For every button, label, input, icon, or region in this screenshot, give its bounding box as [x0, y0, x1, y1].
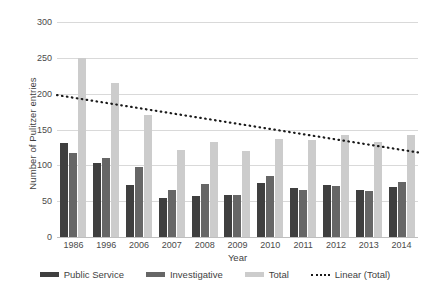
bar-public-service[interactable]: [60, 143, 68, 237]
bars: [385, 22, 418, 237]
bar-total[interactable]: [308, 140, 316, 237]
bar-total[interactable]: [210, 142, 218, 237]
bar-investigative[interactable]: [233, 195, 241, 237]
bars: [287, 22, 320, 237]
bar-total[interactable]: [275, 139, 283, 237]
bar-investigative[interactable]: [102, 158, 110, 237]
plot-area: [57, 22, 418, 237]
x-tick-label: 2006: [123, 240, 156, 250]
y-tick-label: 100: [26, 160, 52, 170]
bar-investigative[interactable]: [398, 182, 406, 237]
y-tick-label: 200: [26, 89, 52, 99]
y-tick-label: 300: [26, 17, 52, 27]
bar-investigative[interactable]: [299, 190, 307, 237]
legend-label: Public Service: [64, 269, 124, 280]
bar-public-service[interactable]: [224, 195, 232, 237]
chart-legend: Public ServiceInvestigativeTotalLinear (…: [0, 269, 430, 280]
bar-investigative[interactable]: [69, 153, 77, 237]
bar-investigative[interactable]: [332, 186, 340, 237]
bar-group: [123, 22, 156, 237]
bar-public-service[interactable]: [159, 198, 167, 237]
bar-investigative[interactable]: [266, 176, 274, 237]
bar-total[interactable]: [78, 58, 86, 237]
x-tick-label: 2012: [320, 240, 353, 250]
bar-total[interactable]: [374, 142, 382, 237]
bars: [221, 22, 254, 237]
bar-group: [155, 22, 188, 237]
bars: [188, 22, 221, 237]
legend-item[interactable]: Total: [245, 269, 289, 280]
pulitzer-entries-chart: Number of Pulitzer entries 0501001502002…: [0, 0, 430, 291]
bar-group: [221, 22, 254, 237]
legend-label: Total: [269, 269, 289, 280]
bar-public-service[interactable]: [126, 185, 134, 237]
x-tick-label: 2014: [385, 240, 418, 250]
bar-group: [385, 22, 418, 237]
bars: [254, 22, 287, 237]
bar-group: [320, 22, 353, 237]
bars: [57, 22, 90, 237]
bars: [90, 22, 123, 237]
y-tick-label: 0: [26, 232, 52, 242]
legend-label: Investigative: [170, 269, 223, 280]
bar-group: [90, 22, 123, 237]
y-tick-label: 150: [26, 125, 52, 135]
bar-total[interactable]: [144, 115, 152, 237]
x-tick-label: 2007: [155, 240, 188, 250]
bars: [155, 22, 188, 237]
x-tick-label: 1996: [90, 240, 123, 250]
x-tick-label: 1986: [57, 240, 90, 250]
bar-groups: [57, 22, 418, 237]
legend-item[interactable]: Investigative: [146, 269, 223, 280]
bar-public-service[interactable]: [93, 163, 101, 237]
legend-label: Linear (Total): [335, 269, 390, 280]
x-axis-line: [57, 237, 418, 238]
y-tick-label: 50: [26, 196, 52, 206]
bar-group: [287, 22, 320, 237]
bar-group: [188, 22, 221, 237]
bar-total[interactable]: [111, 83, 119, 237]
legend-item[interactable]: Public Service: [40, 269, 124, 280]
x-axis-tick-labels: 1986199620062007200820092010201120122013…: [57, 240, 418, 250]
bar-public-service[interactable]: [257, 183, 265, 237]
x-tick-label: 2010: [254, 240, 287, 250]
x-axis-title: Year: [57, 252, 418, 263]
bar-public-service[interactable]: [356, 190, 364, 237]
bar-total[interactable]: [407, 135, 415, 237]
x-tick-label: 2009: [221, 240, 254, 250]
bar-total[interactable]: [177, 150, 185, 237]
bars: [352, 22, 385, 237]
bar-investigative[interactable]: [365, 191, 373, 237]
bar-group: [254, 22, 287, 237]
bars: [123, 22, 156, 237]
x-tick-label: 2011: [287, 240, 320, 250]
bar-total[interactable]: [242, 151, 250, 237]
bar-public-service[interactable]: [323, 185, 331, 237]
bar-investigative[interactable]: [168, 190, 176, 237]
bar-public-service[interactable]: [389, 187, 397, 237]
legend-swatch-investigative: [146, 272, 165, 277]
bar-total[interactable]: [341, 135, 349, 237]
y-axis-tick-labels: 050100150200250300: [22, 0, 52, 291]
bars: [320, 22, 353, 237]
legend-swatch-total: [245, 272, 264, 277]
legend-swatch-public-service: [40, 272, 59, 277]
x-tick-label: 2008: [188, 240, 221, 250]
bar-group: [57, 22, 90, 237]
y-tick-label: 250: [26, 53, 52, 63]
bar-public-service[interactable]: [192, 196, 200, 237]
bar-public-service[interactable]: [290, 188, 298, 237]
legend-item[interactable]: Linear (Total): [311, 269, 390, 280]
legend-swatch-trend: [311, 274, 330, 276]
bar-investigative[interactable]: [201, 184, 209, 237]
bar-group: [352, 22, 385, 237]
x-tick-label: 2013: [352, 240, 385, 250]
bar-investigative[interactable]: [135, 167, 143, 237]
